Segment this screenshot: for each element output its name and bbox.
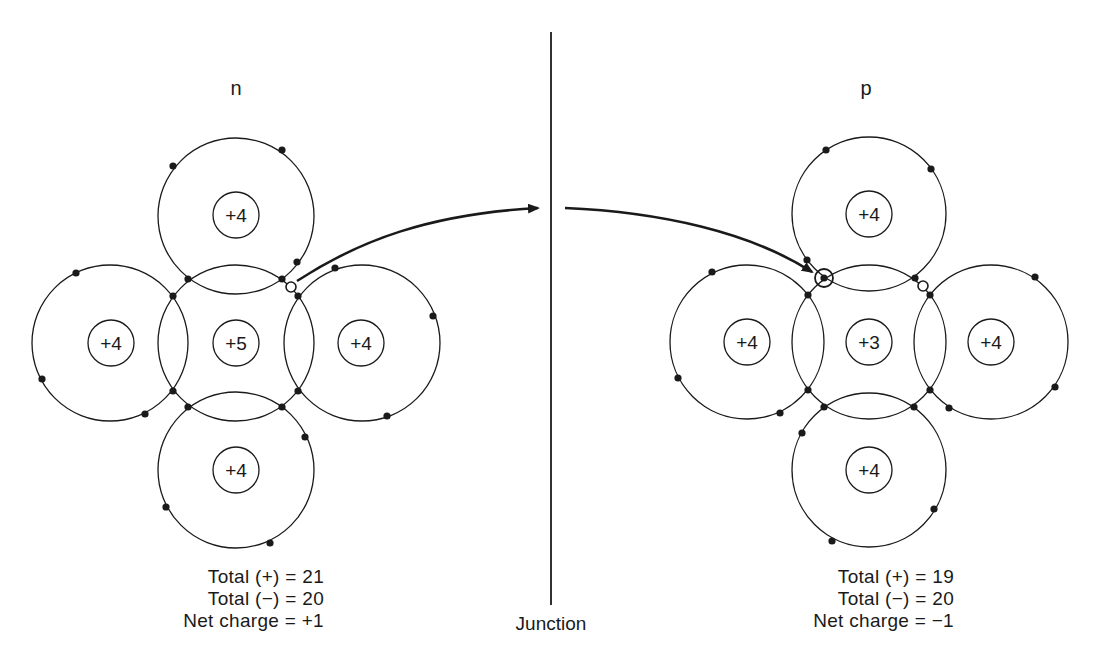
electron (169, 162, 176, 169)
electron (278, 275, 285, 282)
n-total-positive: Total (+) = 21 (150, 566, 324, 588)
electron (828, 537, 835, 544)
p-total-negative: Total (−) = 20 (780, 588, 954, 610)
electron (926, 386, 933, 393)
electron (803, 256, 810, 263)
pn-junction-diagram: +4 +4 +5 +4 +4 (0, 0, 1102, 659)
p-region-label: p (860, 77, 871, 100)
electron (301, 433, 308, 440)
electron (1051, 383, 1058, 390)
electron (293, 258, 300, 265)
electron (266, 539, 273, 546)
electron (162, 503, 169, 510)
p-total-positive: Total (+) = 19 (780, 566, 954, 588)
electron (294, 387, 301, 394)
n-nuclei-labels: +4 +4 +5 +4 +4 (100, 205, 372, 481)
p-nuclei-labels: +4 +4 +3 +4 +4 (736, 204, 1002, 481)
electron (708, 268, 715, 275)
electron (429, 312, 436, 319)
electron (927, 165, 934, 172)
n-total-negative: Total (−) = 20 (150, 588, 324, 610)
n-nucleus-bottom-label: +4 (225, 460, 247, 481)
electron (38, 375, 45, 382)
electron (930, 505, 937, 512)
electron (331, 264, 338, 271)
n-totals: Total (+) = 21 Total (−) = 20 Net charge… (150, 566, 324, 632)
p-captured-electron (815, 269, 833, 287)
electron (798, 429, 805, 436)
electron (169, 387, 176, 394)
electron (911, 274, 918, 281)
p-electron-arrow (565, 208, 812, 272)
n-nucleus-right-label: +4 (350, 333, 372, 354)
electron (278, 146, 285, 153)
electron (72, 269, 79, 276)
p-nucleus-left-label: +4 (736, 332, 758, 353)
electron (822, 146, 829, 153)
electron (804, 386, 811, 393)
n-nucleus-center-label: +5 (225, 333, 247, 354)
electron (1031, 273, 1038, 280)
p-totals: Total (+) = 19 Total (−) = 20 Net charge… (780, 566, 954, 632)
n-net-charge: Net charge = +1 (150, 610, 324, 632)
p-nucleus-bottom-label: +4 (858, 460, 880, 481)
electron (910, 403, 917, 410)
electron (804, 291, 811, 298)
p-nucleus-right-label: +4 (980, 332, 1002, 353)
electron (278, 403, 285, 410)
electron (294, 292, 301, 299)
junction-label: Junction (516, 613, 587, 635)
p-net-charge: Net charge = −1 (780, 610, 954, 632)
electron (926, 291, 933, 298)
electron (184, 275, 191, 282)
p-hole (918, 281, 928, 291)
electron (820, 403, 827, 410)
n-region-label: n (230, 77, 241, 100)
electron (141, 410, 148, 417)
electron (184, 403, 191, 410)
electron (945, 404, 952, 411)
electron (776, 409, 783, 416)
electron (674, 374, 681, 381)
p-nucleus-top-label: +4 (858, 204, 880, 225)
n-hole (286, 282, 296, 292)
n-nucleus-left-label: +4 (100, 333, 122, 354)
electron (169, 292, 176, 299)
p-nucleus-center-label: +3 (858, 332, 880, 353)
n-nucleus-top-label: +4 (225, 205, 247, 226)
electron (383, 412, 390, 419)
